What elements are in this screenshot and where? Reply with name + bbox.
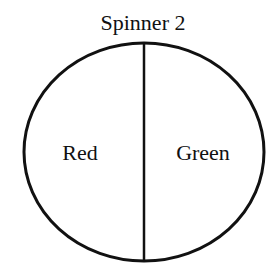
spinner-diagram: Red Green xyxy=(0,0,274,275)
section-label-green: Green xyxy=(176,140,230,165)
section-label-red: Red xyxy=(62,140,97,165)
